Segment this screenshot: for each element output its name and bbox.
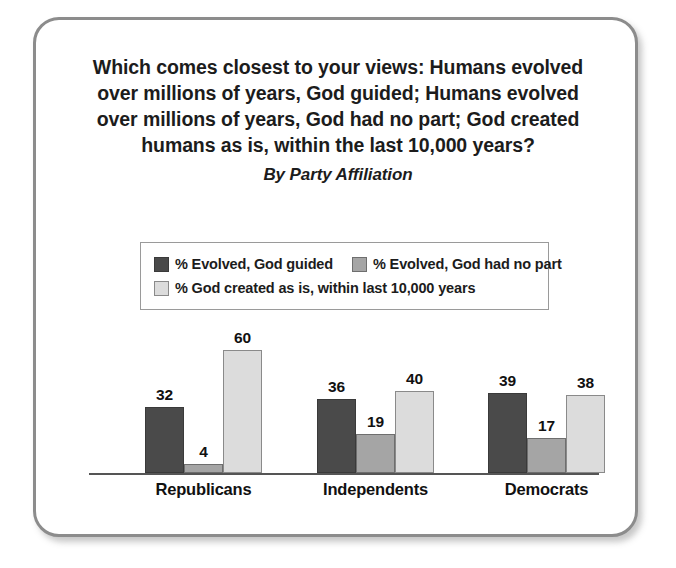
- legend-entry-evolved-no-part: % Evolved, God had no part: [352, 256, 562, 272]
- bar-value-independents-evolved-god-guided: 36: [328, 378, 345, 396]
- bar-republicans-god-created[interactable]: 60: [223, 350, 262, 473]
- chart-title-line-2: over millions of years, God guided; Huma…: [62, 80, 614, 106]
- legend-label-god-created: % God created as is, within last 10,000 …: [175, 280, 475, 296]
- bar-value-republicans-evolved-god-guided: 32: [156, 386, 173, 404]
- category-label-democrats: Democrats: [466, 480, 627, 499]
- bar-group-republicans: 32 4 60 Republicans: [145, 350, 262, 473]
- bar-republicans-evolved-god-guided[interactable]: 32: [145, 407, 184, 473]
- legend-row-1: % Evolved, God guided % Evolved, God had…: [154, 252, 537, 276]
- bar-value-democrats-evolved-god-guided: 39: [499, 372, 516, 390]
- bar-group-democrats: 39 17 38 Democrats: [488, 350, 605, 473]
- chart-legend: % Evolved, God guided % Evolved, God had…: [140, 242, 549, 310]
- bar-group-independents: 36 19 40 Independents: [317, 350, 434, 473]
- chart-title-line-3: over millions of years, God had no part;…: [62, 106, 614, 132]
- bar-democrats-evolved-no-part[interactable]: 17: [527, 438, 566, 473]
- plot-area: 32 4 60 Republicans 36 19 40 Independent…: [89, 350, 599, 475]
- x-axis-line: [89, 473, 599, 475]
- bar-democrats-god-created[interactable]: 38: [566, 395, 605, 473]
- chart-title-block: Which comes closest to your views: Human…: [62, 54, 614, 185]
- chart-title-line-1: Which comes closest to your views: Human…: [62, 54, 614, 80]
- chart-subtitle: By Party Affiliation: [62, 165, 614, 185]
- category-label-republicans: Republicans: [123, 480, 284, 499]
- chart-title-line-4: humans as is, within the last 10,000 yea…: [62, 132, 614, 158]
- legend-row-2: % God created as is, within last 10,000 …: [154, 276, 537, 300]
- legend-swatch-god-created: [154, 281, 169, 296]
- legend-label-evolved-god-guided: % Evolved, God guided: [175, 256, 333, 272]
- legend-label-evolved-no-part: % Evolved, God had no part: [373, 256, 562, 272]
- legend-swatch-evolved-no-part: [352, 257, 367, 272]
- chart-frame: Which comes closest to your views: Human…: [33, 17, 638, 537]
- bar-independents-god-created[interactable]: 40: [395, 391, 434, 473]
- bar-value-independents-god-created: 40: [406, 370, 423, 388]
- legend-swatch-evolved-god-guided: [154, 257, 169, 272]
- legend-entry-god-created: % God created as is, within last 10,000 …: [154, 280, 475, 296]
- bar-value-republicans-evolved-no-part: 4: [199, 443, 208, 461]
- bar-independents-evolved-god-guided[interactable]: 36: [317, 399, 356, 473]
- bar-democrats-evolved-god-guided[interactable]: 39: [488, 393, 527, 473]
- bar-value-republicans-god-created: 60: [234, 329, 251, 347]
- bar-republicans-evolved-no-part[interactable]: 4: [184, 464, 223, 473]
- bar-value-independents-evolved-no-part: 19: [367, 413, 384, 431]
- bar-value-democrats-god-created: 38: [577, 374, 594, 392]
- bar-value-democrats-evolved-no-part: 17: [538, 417, 555, 435]
- bar-independents-evolved-no-part[interactable]: 19: [356, 434, 395, 473]
- legend-entry-evolved-god-guided: % Evolved, God guided: [154, 256, 333, 272]
- category-label-independents: Independents: [295, 480, 456, 499]
